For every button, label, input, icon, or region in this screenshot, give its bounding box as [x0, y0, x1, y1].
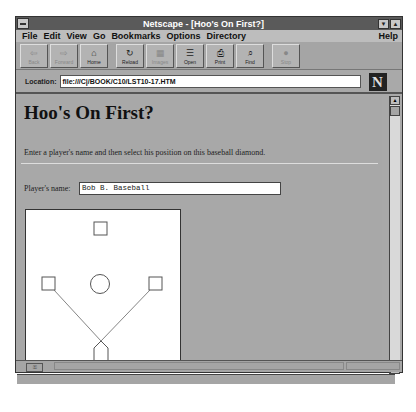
system-menu-button[interactable] [17, 18, 29, 29]
find-button[interactable]: ⌕ Find [236, 44, 264, 68]
window-title: Netscape - [Hoo's On First?] [29, 19, 378, 29]
horizontal-scrollbar[interactable] [17, 374, 395, 384]
forward-button[interactable]: ⇨ Forward [50, 44, 78, 68]
page-title: Hoo's On First? [24, 102, 154, 124]
back-button[interactable]: ⇦ Back [20, 44, 48, 68]
images-button[interactable]: ▦ Images [146, 44, 174, 68]
title-bar: Netscape - [Hoo's On First?] ▼ ▲ [16, 17, 402, 30]
reload-button[interactable]: ↻ Reload [116, 44, 144, 68]
images-icon: ▦ [156, 48, 165, 58]
diamond-graphic [26, 210, 180, 372]
menu-go[interactable]: Go [93, 31, 106, 41]
horizontal-rule [21, 163, 378, 164]
home-button[interactable]: ⌂ Home [80, 44, 108, 68]
third-base[interactable] [42, 277, 55, 290]
stop-button[interactable]: ● Stop [272, 44, 300, 68]
menu-file[interactable]: File [22, 31, 38, 41]
print-button[interactable]: ⎙ Print [206, 44, 234, 68]
baseball-diamond-imagemap[interactable] [25, 209, 181, 372]
menu-help[interactable]: Help [378, 31, 398, 41]
menu-bookmarks[interactable]: Bookmarks [111, 31, 160, 41]
browser-window: Netscape - [Hoo's On First?] ▼ ▲ File Ed… [15, 16, 403, 373]
player-name-input[interactable]: Bob B. Baseball [79, 182, 281, 195]
status-text [54, 362, 344, 370]
minimize-button[interactable]: ▼ [378, 19, 389, 29]
open-icon: ☰ [186, 48, 194, 58]
toolbar: ⇦ Back ⇨ Forward ⌂ Home ↻ Reload ▦ Image… [16, 42, 402, 70]
back-icon: ⇦ [30, 48, 38, 58]
open-button[interactable]: ☰ Open [176, 44, 204, 68]
menu-bar: File Edit View Go Bookmarks Options Dire… [16, 30, 402, 42]
location-input[interactable]: file:///C|/BOOK/C10/LST10-17.HTM [60, 75, 361, 88]
location-bar: Location: file:///C|/BOOK/C10/LST10-17.H… [16, 71, 402, 94]
menu-options[interactable]: Options [166, 31, 200, 41]
netscape-logo[interactable]: N [369, 73, 387, 91]
forward-icon: ⇨ [60, 48, 68, 58]
first-base[interactable] [149, 277, 162, 290]
print-icon: ⎙ [217, 48, 224, 58]
find-icon: ⌕ [248, 48, 253, 58]
home-plate[interactable] [94, 341, 108, 361]
location-label: Location: [25, 78, 57, 85]
pitchers-mound[interactable] [91, 275, 110, 294]
menu-view[interactable]: View [67, 31, 87, 41]
intro-text: Enter a player's name and then select hi… [24, 148, 265, 157]
stop-icon: ● [283, 48, 288, 58]
player-name-label: Player's name: [24, 184, 71, 193]
reload-icon: ↻ [126, 48, 134, 58]
scroll-up-arrow[interactable]: ▲ [390, 96, 400, 105]
page-content: Hoo's On First? Enter a player's name an… [17, 96, 382, 372]
scroll-thumb[interactable] [390, 106, 400, 116]
maximize-button[interactable]: ▲ [390, 19, 401, 29]
second-base[interactable] [94, 222, 107, 235]
menu-directory[interactable]: Directory [206, 31, 246, 41]
key-icon: ⚿ [26, 363, 43, 372]
status-bar: ⚿ [16, 360, 402, 372]
progress-field [346, 362, 400, 370]
home-icon: ⌂ [91, 48, 96, 58]
menu-edit[interactable]: Edit [44, 31, 61, 41]
vertical-scrollbar[interactable]: ▲ ▼ [389, 96, 400, 374]
